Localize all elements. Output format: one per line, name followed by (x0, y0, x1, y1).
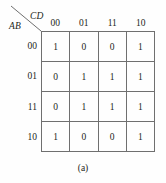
row-header-2: 11 (12, 92, 37, 122)
kmap-cell-r2c0: 0 (42, 92, 70, 122)
kmap-cell-r1c3: 1 (127, 62, 155, 92)
row-header-1: 01 (12, 61, 37, 91)
column-header-1: 01 (70, 17, 99, 30)
kmap-cell-r0c3: 1 (127, 32, 155, 62)
kmap-cell-r0c1: 0 (70, 32, 98, 62)
table-row: 0 1 1 1 (42, 92, 155, 122)
column-header-row: 00 01 11 10 (41, 17, 155, 30)
table-row: 1 0 0 1 (42, 122, 155, 152)
kmap-cell-r0c2: 0 (99, 32, 127, 62)
kmap-cell-r3c3: 1 (127, 122, 155, 152)
kmap-cell-r2c2: 1 (99, 92, 127, 122)
kmap-cell-r1c2: 1 (99, 62, 127, 92)
kmap-grid: 1 0 0 1 0 1 1 1 0 1 1 1 1 0 0 1 (41, 31, 155, 152)
figure-caption: (a) (0, 163, 166, 173)
row-header-0: 00 (12, 31, 37, 61)
column-header-2: 11 (98, 17, 127, 30)
kmap-cell-r1c1: 1 (70, 62, 98, 92)
kmap-cell-r2c1: 1 (70, 92, 98, 122)
kmap-cell-r1c0: 0 (42, 62, 70, 92)
kmap-cell-r0c0: 1 (42, 32, 70, 62)
kmap-cell-r3c0: 1 (42, 122, 70, 152)
kmap-cell-r3c2: 0 (99, 122, 127, 152)
table-row: 0 1 1 1 (42, 62, 155, 92)
row-header-column: 00 01 11 10 (12, 31, 37, 152)
table-row: 1 0 0 1 (42, 32, 155, 62)
karnaugh-map-figure: CD AB 00 01 11 10 00 01 11 10 1 0 0 1 0 … (0, 0, 166, 183)
column-header-3: 10 (127, 17, 156, 30)
row-variable-label: AB (9, 21, 21, 31)
column-header-0: 00 (41, 17, 70, 30)
kmap-cell-r2c3: 1 (127, 92, 155, 122)
kmap-corner-header: CD AB (6, 4, 46, 33)
row-header-3: 10 (12, 122, 37, 152)
kmap-cell-r3c1: 0 (70, 122, 98, 152)
